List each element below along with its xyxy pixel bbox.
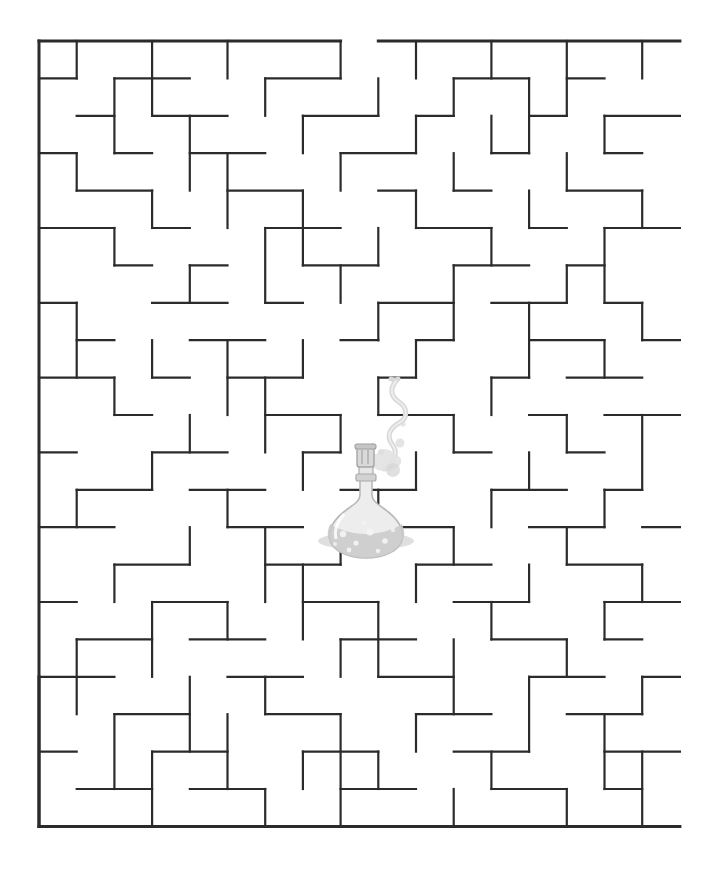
liquid-bubble-icon [340, 531, 346, 537]
vapor-dot-icon [396, 439, 405, 448]
maze-wall-group [39, 41, 680, 826]
maze-page [0, 0, 715, 869]
liquid-bubble-icon [391, 528, 395, 532]
vapor-dot-icon [386, 463, 400, 477]
vapor-dot-icon [378, 449, 384, 455]
liquid-bubble-icon [366, 528, 373, 535]
maze-container [0, 0, 715, 869]
liquid-bubble-icon [353, 540, 358, 545]
flask-stopper-cap-icon [355, 444, 376, 449]
chemistry-flask-illustration [318, 379, 414, 558]
liquid-bubble-icon [362, 521, 367, 526]
liquid-bubble-icon [376, 549, 380, 553]
maze-svg [0, 0, 715, 869]
liquid-bubble-icon [382, 538, 388, 544]
liquid-bubble-icon [333, 542, 337, 546]
flask-collar-icon [356, 474, 376, 481]
liquid-bubble-icon [347, 548, 352, 553]
vapor-dot-icon [400, 421, 405, 426]
flask-stopper-icon [357, 447, 374, 467]
